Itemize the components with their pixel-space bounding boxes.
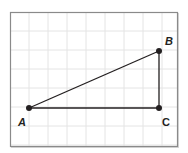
point-b: [156, 48, 162, 54]
label-a: A: [17, 116, 26, 128]
label-b: B: [165, 35, 173, 47]
label-c: C: [162, 116, 170, 128]
point-c: [156, 105, 162, 111]
grid: [10, 12, 177, 146]
triangle-diagram: ABC: [0, 0, 188, 153]
point-a: [26, 105, 32, 111]
